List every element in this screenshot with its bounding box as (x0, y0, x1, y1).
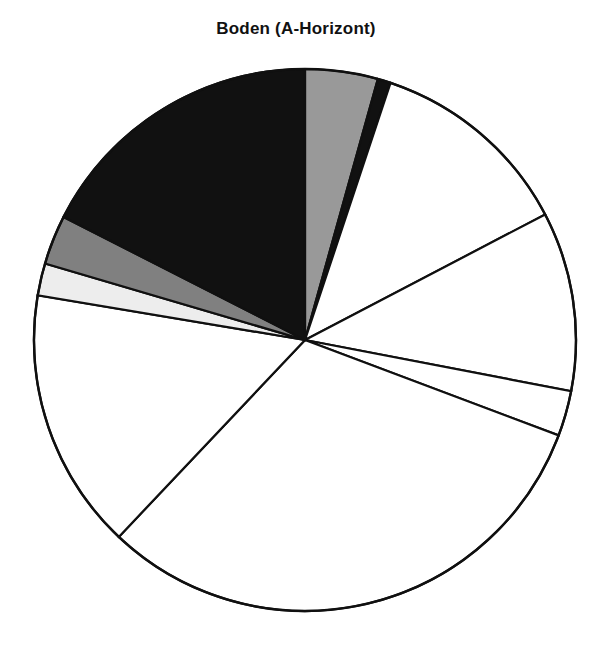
pie-chart-area (0, 0, 592, 651)
pie-slices-group (34, 69, 576, 611)
pie-chart-svg (0, 0, 592, 651)
pie-chart-figure: Boden (A-Horizont) (0, 0, 592, 651)
